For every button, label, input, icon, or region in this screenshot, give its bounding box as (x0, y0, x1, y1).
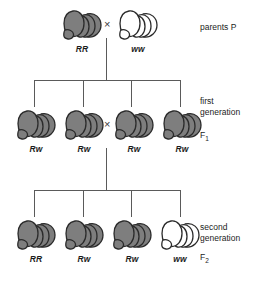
flower-f1-2 (64, 108, 104, 142)
side-label-f2-line1: second (200, 222, 227, 234)
side-label-f1-symbol: F1 (200, 130, 209, 144)
genotype-parent-right: ww (116, 44, 160, 54)
genotype-parent-left: RR (60, 44, 104, 54)
f2-symbol-index: 2 (205, 257, 209, 264)
flower-f1-4 (162, 108, 202, 142)
flower-f1-1 (16, 108, 56, 142)
pedigree-diagram: × RR ww parents P × Rw Rw Rw Rw first ge… (0, 0, 258, 285)
flower-parent-dominant (62, 8, 102, 42)
genotype-f2-2: Rw (62, 254, 106, 264)
flower-f2-4 (160, 218, 200, 252)
genotype-f1-3: Rw (112, 144, 156, 154)
flower-parent-recessive (118, 8, 158, 42)
side-label-f2-symbol: F2 (200, 252, 209, 266)
side-label-f1-line2: generation (200, 107, 240, 119)
side-label-f1-line1: first (200, 96, 214, 108)
cross-symbol-parents: × (104, 19, 110, 30)
genotype-f2-1: RR (14, 254, 58, 264)
f1-symbol-index: 1 (205, 135, 209, 142)
genotype-f2-4: ww (158, 254, 202, 264)
genotype-f1-2: Rw (62, 144, 106, 154)
side-label-f2-line2: generation (200, 233, 240, 245)
flower-f2-1 (16, 218, 56, 252)
genotype-f1-4: Rw (160, 144, 204, 154)
genotype-f1-1: Rw (14, 144, 58, 154)
flower-f2-3 (112, 218, 152, 252)
flower-f2-2 (64, 218, 104, 252)
cross-symbol-f1: × (104, 119, 110, 130)
side-label-parents: parents P (200, 22, 236, 34)
flower-f1-3 (114, 108, 154, 142)
genotype-f2-3: Rw (110, 254, 154, 264)
